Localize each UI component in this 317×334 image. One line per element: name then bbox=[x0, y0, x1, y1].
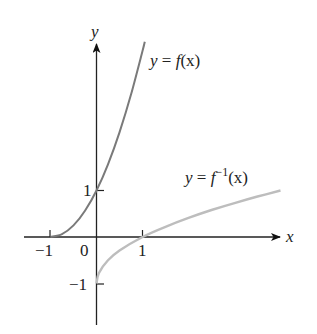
label-f-arg: (x) bbox=[180, 51, 200, 70]
axis-label-y: y bbox=[89, 22, 99, 41]
label-inv-arg: (x) bbox=[228, 168, 248, 187]
function-inverse-plot: −1 0 1 1 −1 x y y = f(x) y = f−1(x) bbox=[0, 0, 317, 334]
tick-label-y-neg1: −1 bbox=[69, 275, 87, 294]
label-inv-eq: = bbox=[193, 168, 211, 187]
tick-label-x-0: 0 bbox=[80, 241, 89, 260]
label-f: y = f(x) bbox=[148, 51, 200, 70]
axis-label-x: x bbox=[285, 227, 294, 246]
tick-label-y-1: 1 bbox=[83, 181, 92, 200]
label-f-inverse: y = f−1(x) bbox=[183, 165, 248, 187]
curve-f bbox=[51, 42, 145, 237]
tick-label-x-neg1: −1 bbox=[35, 241, 53, 260]
label-f-eq: = bbox=[158, 51, 176, 70]
tick-label-x-1: 1 bbox=[138, 241, 147, 260]
label-inv-y: y bbox=[183, 168, 193, 187]
label-f-y: y bbox=[148, 51, 158, 70]
label-inv-sup: −1 bbox=[215, 165, 228, 179]
